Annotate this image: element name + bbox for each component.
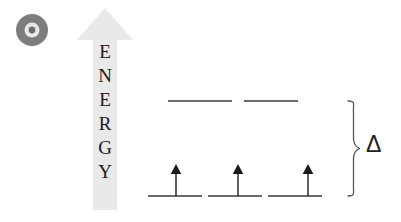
electron-arrow-up-1	[171, 164, 182, 196]
splitting-brace	[348, 101, 360, 196]
energy-level-diagram-figure: E N E R G Y	[0, 0, 401, 222]
electron-arrow-up-2	[233, 164, 244, 196]
energy-levels-group	[0, 0, 401, 222]
splitting-delta-label: Δ	[366, 133, 381, 156]
electron-arrow-up-3	[303, 164, 314, 196]
electron-spin-arrows	[171, 164, 314, 196]
